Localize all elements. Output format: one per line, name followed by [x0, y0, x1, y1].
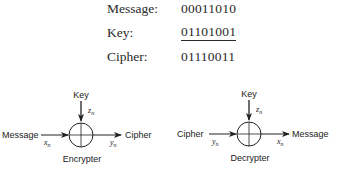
decrypter-input-label: Cipher — [177, 129, 204, 139]
encrypter-title: Encrypter — [63, 154, 102, 164]
decrypter-title: Decrypter — [230, 153, 269, 163]
decrypter-output-label: Message — [292, 129, 329, 139]
decrypter-key-label: Key — [241, 89, 257, 99]
encrypter-key-var: zn — [87, 106, 94, 116]
encrypter-input-label: Message — [2, 130, 39, 140]
encrypter-key-label: Key — [73, 90, 89, 100]
encrypter-output-label: Cipher — [125, 130, 152, 140]
decrypter-diagram: Key zn Cipher yn Message xn Decrypter — [177, 89, 329, 163]
decrypter-output-var: xn — [276, 137, 284, 147]
encrypter-diagram: Key zn Message xn Cipher yn Encrypter — [2, 90, 152, 164]
encrypter-input-var: xn — [43, 138, 51, 148]
xor-diagrams: Key zn Message xn Cipher yn Encrypter Ke… — [0, 0, 337, 171]
encrypter-output-var: yn — [109, 138, 117, 148]
decrypter-key-var: zn — [255, 105, 262, 115]
decrypter-input-var: yn — [211, 137, 219, 147]
